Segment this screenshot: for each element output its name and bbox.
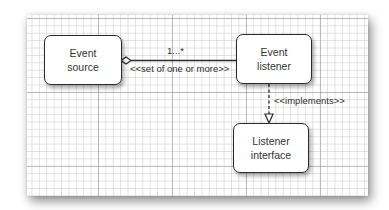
- event-listener-label: Event listener: [257, 45, 291, 73]
- set-of-one-or-more-stereotype: <<set of one or more>>: [130, 63, 229, 74]
- implements-stereotype: <<implements>>: [274, 95, 345, 106]
- listener-interface-box[interactable]: Listener interface: [233, 123, 309, 173]
- multiplicity-label: 1...*: [167, 45, 184, 56]
- event-listener-box[interactable]: Event listener: [236, 34, 312, 84]
- diagram-canvas: Event source Event listener Listener int…: [0, 0, 389, 210]
- event-source-box[interactable]: Event source: [44, 35, 122, 85]
- listener-interface-label: Listener interface: [251, 134, 291, 162]
- event-source-label: Event source: [67, 46, 99, 74]
